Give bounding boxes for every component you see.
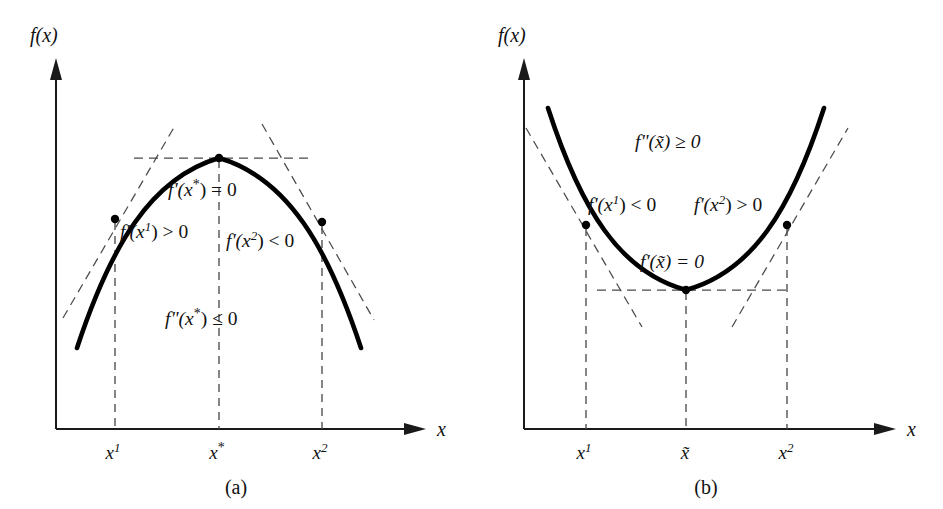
y-axis-arrowhead [518, 58, 530, 80]
panel-a-caption: (a) [225, 476, 247, 499]
panel-b-annotation-right-slope: f'(x2) > 0 [694, 192, 762, 216]
panel-b-annotation-stationary-point: f'(x̃) = 0 [640, 251, 704, 273]
panel-a-y-axis-label: f(x) [30, 24, 58, 47]
panel-a-tick-label-x1: x1 [105, 440, 121, 463]
panel-b-tick-label-x2: x2 [778, 440, 794, 463]
panel-a-tick-label-x2: x2 [312, 440, 328, 463]
panel-a-annotation-right-slope: f'(x2) < 0 [226, 228, 294, 252]
panel-b-point-x2 [783, 221, 791, 229]
panel-b-tick-label-x1: x1 [576, 440, 592, 463]
x-axis-arrowhead [874, 423, 896, 435]
panel-a-point-x2 [318, 218, 326, 226]
panel-b-x-axis-label: x [906, 418, 916, 440]
panel-b-tick-label-xtilde: x̃ [680, 442, 690, 463]
panel-b-y-axis-label: f(x) [498, 24, 526, 47]
panel-a-x-axis [56, 423, 426, 435]
panel-b: f(x) x f"(x̃) ≥ 0 f'(x1) < 0 f'(x [470, 0, 943, 509]
panel-b-point-x1 [582, 221, 590, 229]
panel-a-point-xstar [215, 154, 223, 162]
panel-a-x-axis-label: x [436, 418, 446, 440]
panel-a-point-x1 [111, 215, 119, 223]
panel-b-y-axis [518, 58, 530, 429]
panel-a-annotation-left-slope: f'(x1) > 0 [120, 219, 188, 243]
panel-b-point-xtilde [682, 286, 690, 294]
panel-b-annotation-left-slope: f'(x1) < 0 [588, 192, 656, 216]
panel-b-caption: (b) [694, 476, 717, 499]
panel-b-x-axis [524, 423, 896, 435]
panel-b-annotation-second-derivative: f"(x̃) ≥ 0 [635, 131, 701, 153]
figure-root: f(x) x f'(x*) = 0 f'(x1) > 0 f'(x [0, 0, 943, 509]
panel-a-tick-label-xstar: x* [208, 440, 224, 463]
panel-a: f(x) x f'(x*) = 0 f'(x1) > 0 f'(x [0, 0, 472, 509]
y-axis-arrowhead [50, 58, 62, 80]
x-axis-arrowhead [404, 423, 426, 435]
panel-a-annotation-second-derivative: f"(x*) ≤ 0 [165, 306, 237, 330]
panel-a-y-axis [50, 58, 62, 429]
panel-a-annotation-stationary-point: f'(x*) = 0 [168, 177, 237, 201]
